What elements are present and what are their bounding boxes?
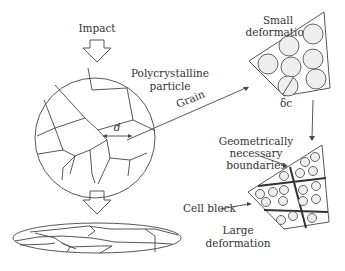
cell-size-label: δc [280,97,292,109]
impact-label: Impact [78,22,116,34]
arrowhead-icon [247,202,252,206]
impact-arrow-icon [83,40,111,62]
gnb-label-line3: boundaries [226,159,286,171]
large-deformation-label-line1: Large [222,224,253,236]
particle-label-line2: particle [149,80,190,92]
flattened-particle [13,223,181,253]
polycrystalline-particle [35,68,155,198]
cell-block-label: Cell block [183,202,237,214]
arrowhead-icon [309,136,315,141]
deformation-diagram: Impact Polycrystalline particle d Grain … [0,0,345,271]
grain-size-label: d [114,121,121,133]
gnb-label-line1: Geometrically [219,135,294,147]
gnb-label-line2: necessary [229,147,282,159]
deformation-progress-arrow [312,100,313,138]
small-deformation-label-line2: deformation [245,26,310,38]
particle-label-line1: Polycrystalline [131,67,209,79]
small-deformation-label-line1: Small [263,14,294,26]
large-deformation-label-line2: deformation [205,237,270,249]
flatten-arrow-icon [83,191,111,214]
